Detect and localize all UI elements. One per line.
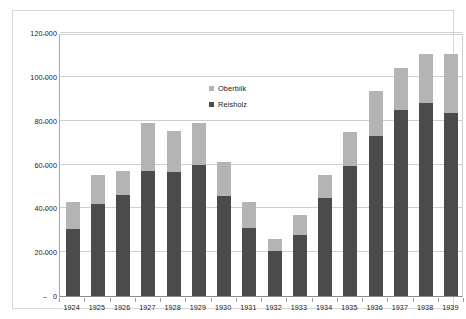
bar-1936[interactable] <box>369 91 383 296</box>
bar-1929[interactable] <box>192 123 206 296</box>
bar-1927[interactable] <box>141 123 155 296</box>
bar-segment-reisholz <box>242 228 256 296</box>
x-axis-tick-mark <box>84 298 85 302</box>
y-axis-tick-mark <box>43 297 47 298</box>
bar-segment-oberbilk <box>192 123 206 165</box>
y-axis-tick-label: 100.000 <box>13 73 57 82</box>
y-axis-tick-mark <box>43 166 47 167</box>
bar-1924[interactable] <box>66 202 80 296</box>
bar-1933[interactable] <box>293 215 307 296</box>
bar-segment-reisholz <box>268 251 282 296</box>
x-axis-tick-mark <box>286 298 287 302</box>
bar-1925[interactable] <box>91 175 105 296</box>
legend-label: Oberbilk <box>218 84 246 93</box>
bar-1934[interactable] <box>318 175 332 296</box>
bar-segment-reisholz <box>394 110 408 296</box>
legend-label: Reisholz <box>218 100 247 109</box>
y-axis-tick-mark <box>43 34 47 35</box>
plot-area <box>59 34 463 297</box>
x-axis-tick-mark <box>413 298 414 302</box>
x-axis-tick-mark <box>312 298 313 302</box>
x-axis-tick-mark <box>59 298 60 302</box>
x-axis-tick-mark <box>438 298 439 302</box>
bar-segment-reisholz <box>293 235 307 296</box>
bar-segment-reisholz <box>141 171 155 296</box>
bar-1935[interactable] <box>343 132 357 296</box>
bar-segment-oberbilk <box>167 131 181 173</box>
bar-1937[interactable] <box>394 68 408 296</box>
bar-segment-reisholz <box>217 196 231 296</box>
bar-series-group <box>60 35 462 296</box>
bar-segment-oberbilk <box>343 132 357 166</box>
legend-swatch-icon <box>209 86 214 91</box>
y-axis-tick-label: 0 <box>13 292 57 301</box>
x-axis-tick-mark <box>463 298 464 302</box>
bar-segment-oberbilk <box>242 202 256 228</box>
y-axis-tick-mark <box>43 122 47 123</box>
bar-segment-reisholz <box>444 113 458 296</box>
bar-1926[interactable] <box>116 171 130 296</box>
bar-1938[interactable] <box>419 54 433 296</box>
y-axis-tick-label: 80.000 <box>13 117 57 126</box>
chart-legend: OberbilkReisholz <box>209 80 319 112</box>
x-axis-tick-mark <box>110 298 111 302</box>
bar-segment-reisholz <box>91 204 105 296</box>
bar-segment-reisholz <box>343 166 357 296</box>
bar-segment-reisholz <box>192 165 206 297</box>
bar-segment-oberbilk <box>91 175 105 203</box>
bar-segment-oberbilk <box>116 171 130 195</box>
bar-segment-oberbilk <box>369 91 383 136</box>
bar-segment-oberbilk <box>293 215 307 235</box>
x-axis-tick-mark <box>236 298 237 302</box>
bar-segment-reisholz <box>66 229 80 296</box>
y-axis-tick-mark <box>43 209 47 210</box>
x-axis-tick-mark <box>185 298 186 302</box>
bar-segment-oberbilk <box>419 54 433 103</box>
bar-segment-oberbilk <box>444 54 458 113</box>
x-axis-tick-mark <box>135 298 136 302</box>
bar-segment-reisholz <box>419 103 433 296</box>
x-axis-tick-mark <box>211 298 212 302</box>
legend-item-reisholz[interactable]: Reisholz <box>209 96 319 112</box>
bar-segment-oberbilk <box>66 202 80 229</box>
y-axis-tick-mark <box>43 78 47 79</box>
bar-segment-oberbilk <box>318 175 332 198</box>
y-axis-tick-mark <box>43 253 47 254</box>
x-axis-tick-label-1939: 1939 <box>433 303 466 312</box>
x-axis-tick-mark <box>387 298 388 302</box>
bar-1932[interactable] <box>268 239 282 296</box>
bar-1931[interactable] <box>242 202 256 296</box>
bar-segment-oberbilk <box>217 162 231 196</box>
legend-item-oberbilk[interactable]: Oberbilk <box>209 80 319 96</box>
chart-frame: 020.00040.00060.00080.000100.000120.000 … <box>12 10 454 309</box>
chart-screenshot: 020.00040.00060.00080.000100.000120.000 … <box>0 0 466 319</box>
x-axis-tick-mark <box>160 298 161 302</box>
bar-segment-reisholz <box>167 172 181 296</box>
y-axis-tick-label: 60.000 <box>13 161 57 170</box>
gridline <box>60 32 462 33</box>
bar-segment-oberbilk <box>394 68 408 110</box>
bar-segment-oberbilk <box>141 123 155 171</box>
bar-1928[interactable] <box>167 131 181 296</box>
bar-1939[interactable] <box>444 54 458 296</box>
x-axis: 1924192519261927192819291930193119321933… <box>59 298 463 319</box>
bar-segment-reisholz <box>116 195 130 296</box>
y-axis-tick-label: 20.000 <box>13 248 57 257</box>
y-axis-tick-label: 40.000 <box>13 204 57 213</box>
x-axis-tick-mark <box>362 298 363 302</box>
bar-segment-reisholz <box>318 198 332 296</box>
y-axis-tick-label: 120.000 <box>13 29 57 38</box>
x-axis-tick-mark <box>337 298 338 302</box>
x-axis-tick-mark <box>261 298 262 302</box>
bar-segment-oberbilk <box>268 239 282 251</box>
legend-swatch-icon <box>209 102 214 107</box>
bar-segment-reisholz <box>369 136 383 296</box>
bar-1930[interactable] <box>217 162 231 296</box>
